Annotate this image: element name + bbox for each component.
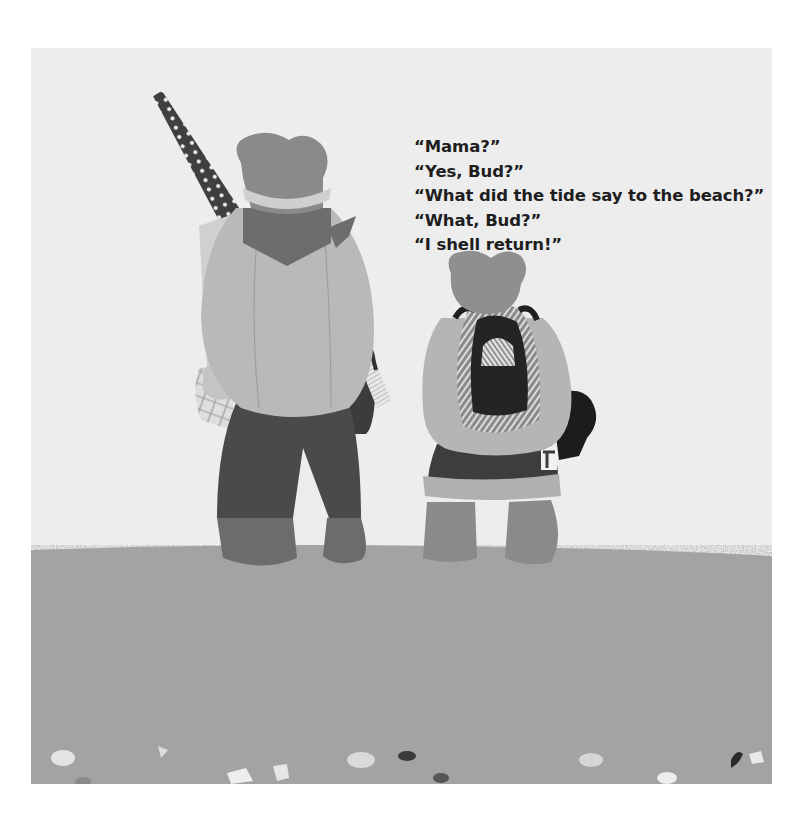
mama-right-foot [323,518,366,563]
backpack [455,303,540,432]
dialogue-line: “What, Bud?” [414,209,764,234]
sky [31,48,772,568]
dialogue-text: “Mama?” “Yes, Bud?” “What did the tide s… [414,135,764,258]
mama-left-foot [217,518,297,566]
dialogue-line: “What did the tide say to the beach?” [414,184,764,209]
dialogue-line: “Yes, Bud?” [414,160,764,185]
dialogue-line: “Mama?” [414,135,764,160]
sand [31,545,772,784]
illustration: “Mama?” “Yes, Bud?” “What did the tide s… [31,48,772,784]
dialogue-line: “I shell return!” [414,233,764,258]
